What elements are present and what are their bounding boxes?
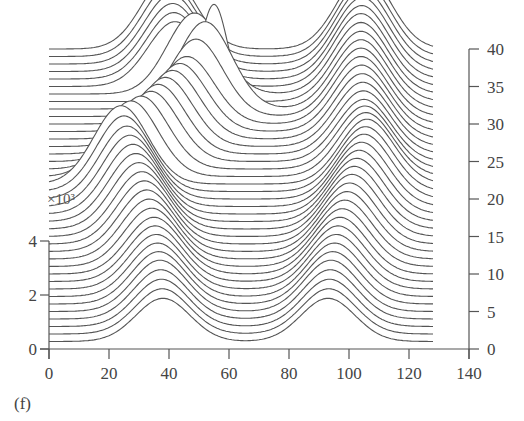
x-tick-label: 120 <box>396 364 422 383</box>
x-tick-label: 40 <box>161 364 178 383</box>
x-tick-label: 20 <box>101 364 118 383</box>
left-y-tick-label: 4 <box>29 232 38 251</box>
left-y-tick-label: 2 <box>29 286 38 305</box>
right-y-tick-label: 0 <box>487 340 496 359</box>
right-y-tick-label: 5 <box>487 303 496 322</box>
y-scale-multiplier: ×10³ <box>47 191 75 207</box>
right-y-tick-label: 10 <box>487 265 504 284</box>
x-tick-label: 0 <box>45 364 54 383</box>
x-tick-label: 100 <box>336 364 362 383</box>
right-y-tick-label: 15 <box>487 228 504 247</box>
right-y-tick-label: 25 <box>487 153 504 172</box>
waterfall-chart: 0204060801001201400240510152025303540 ×1… <box>0 0 524 421</box>
right-y-tick-label: 20 <box>487 190 504 209</box>
right-y-tick-label: 35 <box>487 78 504 97</box>
x-tick-label: 80 <box>281 364 298 383</box>
x-tick-label: 140 <box>456 364 482 383</box>
waterfall-traces <box>49 0 433 351</box>
right-y-tick-label: 30 <box>487 115 504 134</box>
right-y-tick-label: 40 <box>487 40 504 59</box>
panel-label: (f) <box>14 394 31 414</box>
left-y-tick-label: 0 <box>29 340 38 359</box>
x-tick-label: 60 <box>221 364 238 383</box>
